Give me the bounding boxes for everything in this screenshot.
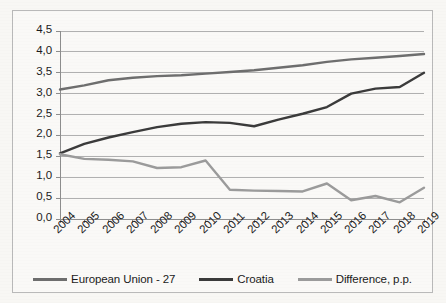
y-axis-tick-label: 4,0 bbox=[18, 44, 52, 56]
y-axis-tick-label: 1,0 bbox=[18, 169, 52, 181]
y-axis-tick-label: 0,5 bbox=[18, 190, 52, 202]
y-axis-tick-label: 3,0 bbox=[18, 86, 52, 98]
series-line bbox=[60, 73, 424, 154]
legend-label: Difference, p.p. bbox=[336, 273, 412, 285]
series-line bbox=[60, 54, 424, 90]
legend-color-swatch bbox=[199, 278, 233, 281]
legend-color-swatch bbox=[33, 278, 67, 281]
y-axis-tick-label: 4,5 bbox=[18, 23, 52, 35]
y-axis-tick-label: 0,0 bbox=[18, 211, 52, 223]
legend-label: Croatia bbox=[237, 273, 273, 285]
y-axis-tick-label: 3,5 bbox=[18, 65, 52, 77]
legend-color-swatch bbox=[298, 278, 332, 281]
y-axis-tick-label: 1,5 bbox=[18, 148, 52, 160]
series-line bbox=[60, 154, 424, 202]
chart-legend: European Union - 27CroatiaDifference, p.… bbox=[13, 266, 432, 292]
y-axis-tick-label: 2,0 bbox=[18, 127, 52, 139]
legend-item[interactable]: Croatia bbox=[199, 273, 273, 285]
legend-label: European Union - 27 bbox=[71, 273, 175, 285]
legend-item[interactable]: Difference, p.p. bbox=[298, 273, 412, 285]
legend-item[interactable]: European Union - 27 bbox=[33, 273, 175, 285]
y-axis-tick-label: 2,5 bbox=[18, 107, 52, 119]
line-chart: 0,00,51,01,52,02,53,03,54,04,5 200420052… bbox=[0, 0, 446, 303]
plot-area bbox=[0, 0, 446, 303]
